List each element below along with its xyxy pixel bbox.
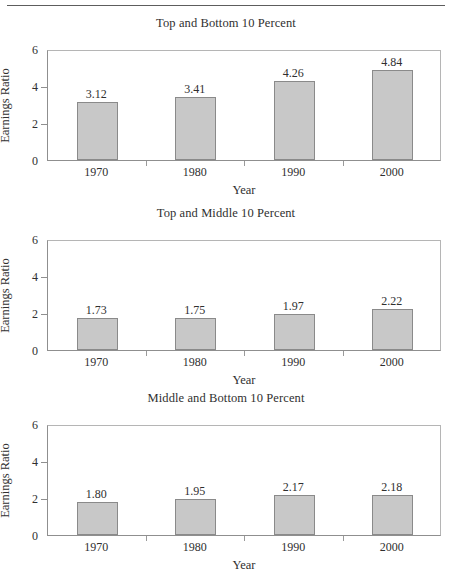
header-divider [7, 5, 445, 6]
chart-title: Middle and Bottom 10 Percent [0, 391, 452, 406]
bar [77, 318, 118, 350]
bar [77, 502, 118, 535]
y-axis-tick-mark [41, 87, 47, 88]
chart-title: Top and Middle 10 Percent [0, 206, 452, 221]
bar [175, 318, 216, 350]
bar [77, 102, 118, 160]
bar-value-label: 2.18 [362, 481, 422, 493]
x-axis-tick-label: 1990 [263, 540, 323, 555]
x-axis-tick-label: 2000 [362, 355, 422, 370]
bar [372, 70, 413, 160]
x-axis-tick-label: 1980 [165, 355, 225, 370]
x-axis-tick-mark [146, 536, 147, 541]
bar-value-label: 4.26 [263, 67, 323, 79]
y-axis-tick-label: 2 [20, 118, 38, 130]
x-axis-tick-label: 1980 [165, 165, 225, 180]
bar-value-label: 1.95 [165, 485, 225, 497]
y-axis-label: Earnings Ratio [0, 240, 12, 351]
x-axis-tick-mark [244, 161, 245, 166]
bar-value-label: 2.17 [263, 481, 323, 493]
x-axis-tick-label: 2000 [362, 165, 422, 180]
bar-value-label: 1.97 [263, 300, 323, 312]
x-axis-tick-mark [146, 351, 147, 356]
bar [175, 499, 216, 535]
y-axis-tick-label: 6 [20, 234, 38, 246]
x-axis-tick-mark [343, 536, 344, 541]
x-axis-tick-mark [244, 351, 245, 356]
y-axis-tick-label: 0 [20, 345, 38, 357]
y-axis-tick-mark [41, 124, 47, 125]
x-axis-tick-label: 1970 [66, 165, 126, 180]
bar-value-label: 3.41 [165, 83, 225, 95]
bar [372, 495, 413, 535]
y-axis-tick-label: 0 [20, 155, 38, 167]
x-axis-tick-mark [146, 161, 147, 166]
bar-value-label: 3.12 [66, 88, 126, 100]
x-axis-label: Year [47, 558, 441, 573]
bar-value-label: 1.73 [66, 304, 126, 316]
bar-value-label: 1.80 [66, 488, 126, 500]
x-axis-tick-mark [343, 161, 344, 166]
x-axis-tick-mark [244, 536, 245, 541]
x-axis-tick-label: 1970 [66, 355, 126, 370]
x-axis-tick-label: 1980 [165, 540, 225, 555]
bar [175, 97, 216, 160]
y-axis-tick-label: 4 [20, 271, 38, 283]
x-axis-label: Year [47, 183, 441, 198]
y-axis-label: Earnings Ratio [0, 50, 12, 161]
y-axis-tick-mark [41, 462, 47, 463]
y-axis-tick-label: 2 [20, 308, 38, 320]
bar-value-label: 1.75 [165, 304, 225, 316]
y-axis-tick-label: 6 [20, 44, 38, 56]
bar [372, 309, 413, 350]
y-axis-tick-label: 4 [20, 81, 38, 93]
y-axis-tick-label: 4 [20, 456, 38, 468]
bar [274, 495, 315, 535]
y-axis-tick-mark [41, 314, 47, 315]
x-axis-tick-label: 1990 [263, 165, 323, 180]
y-axis-tick-mark [41, 499, 47, 500]
x-axis-label: Year [47, 373, 441, 388]
x-axis-tick-label: 1990 [263, 355, 323, 370]
y-axis-tick-mark [41, 277, 47, 278]
y-axis-label: Earnings Ratio [0, 425, 12, 536]
x-axis-tick-label: 1970 [66, 540, 126, 555]
x-axis-tick-label: 2000 [362, 540, 422, 555]
bar [274, 81, 315, 160]
x-axis-tick-mark [343, 351, 344, 356]
y-axis-tick-label: 2 [20, 493, 38, 505]
bar-value-label: 4.84 [362, 56, 422, 68]
chart-title: Top and Bottom 10 Percent [0, 16, 452, 31]
y-axis-tick-label: 6 [20, 419, 38, 431]
bar-value-label: 2.22 [362, 295, 422, 307]
bar [274, 314, 315, 350]
y-axis-tick-label: 0 [20, 530, 38, 542]
